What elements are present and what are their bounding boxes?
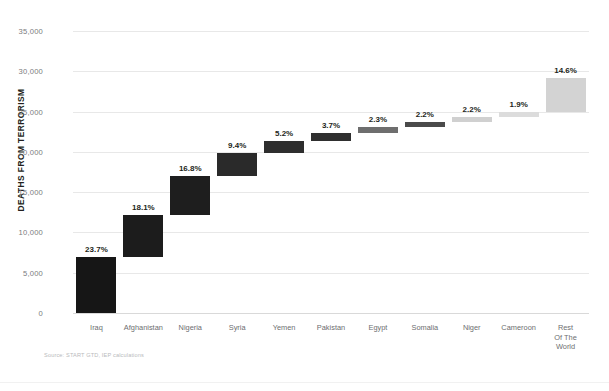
waterfall-chart: DEATHS FROM TERRORISM 05,00010,00015,000…	[0, 0, 609, 391]
bar[interactable]	[123, 215, 163, 257]
bar-value-label: 2.3%	[369, 115, 387, 124]
bar-value-label: 2.2%	[463, 105, 481, 114]
x-axis-tick-label: Nigeria	[167, 323, 214, 333]
x-axis-tick-label: Syria	[214, 323, 261, 333]
x-axis-tick-label: Afghanistan	[120, 323, 167, 333]
source-note: Source: START GTD, IEP calculations	[44, 352, 144, 358]
x-axis-tick-label: Niger	[448, 323, 495, 333]
bar[interactable]	[546, 78, 586, 112]
x-axis-tick-label: Cameroon	[495, 323, 542, 333]
bar[interactable]	[170, 176, 210, 215]
gridline	[73, 313, 589, 314]
bar-value-label: 18.1%	[132, 203, 155, 212]
bar[interactable]	[452, 117, 492, 122]
bar[interactable]	[217, 153, 257, 175]
footer-divider	[0, 382, 609, 383]
gridline	[73, 152, 589, 153]
y-axis-tick-label: 15,000	[0, 188, 43, 197]
x-axis-tick-label: Rest Of The World	[542, 323, 589, 352]
y-axis-tick-label: 0	[0, 309, 43, 318]
y-axis-tick-label: 30,000	[0, 67, 43, 76]
gridline	[73, 273, 589, 274]
gridline	[73, 31, 589, 32]
gridline	[73, 192, 589, 193]
bar[interactable]	[76, 257, 116, 313]
bar-value-label: 9.4%	[228, 141, 246, 150]
y-axis-tick-label: 35,000	[0, 27, 43, 36]
x-axis-tick-label: Somalia	[401, 323, 448, 333]
bar[interactable]	[311, 133, 351, 142]
bar-value-label: 5.2%	[275, 129, 293, 138]
y-axis-tick-label: 25,000	[0, 107, 43, 116]
bar[interactable]	[358, 127, 398, 132]
y-axis-tick-label: 20,000	[0, 147, 43, 156]
x-axis-tick-label: Egypt	[354, 323, 401, 333]
bar-value-label: 14.6%	[554, 66, 577, 75]
bar[interactable]	[405, 122, 445, 127]
plot-area: 05,00010,00015,00020,00025,00030,00035,0…	[73, 31, 589, 313]
gridline	[73, 71, 589, 72]
bar-value-label: 2.2%	[416, 110, 434, 119]
x-axis-tick-label: Yemen	[261, 323, 308, 333]
bar-value-label: 3.7%	[322, 121, 340, 130]
x-axis-tick-label: Iraq	[73, 323, 120, 333]
bar-value-label: 1.9%	[510, 100, 528, 109]
y-axis-tick-label: 10,000	[0, 228, 43, 237]
bar[interactable]	[499, 112, 539, 116]
bar-value-label: 23.7%	[85, 245, 108, 254]
bar[interactable]	[264, 141, 304, 153]
x-axis-tick-label: Pakistan	[308, 323, 355, 333]
bar-value-label: 16.8%	[179, 164, 202, 173]
y-axis-tick-label: 5,000	[0, 268, 43, 277]
